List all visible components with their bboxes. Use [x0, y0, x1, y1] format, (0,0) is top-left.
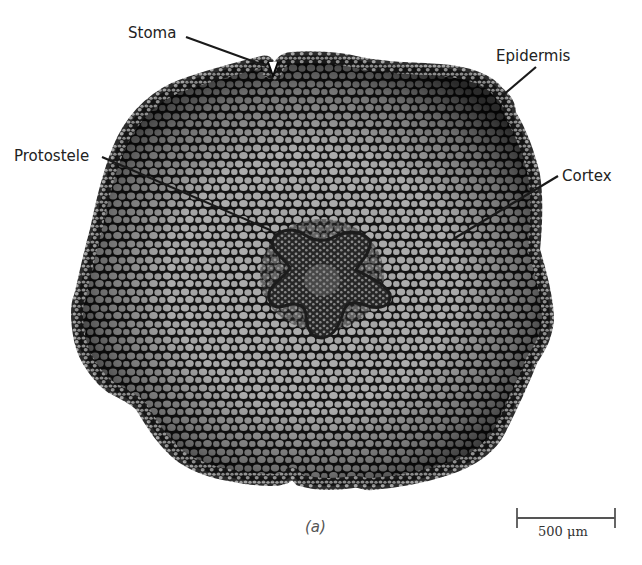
epidermis-leader-line	[502, 67, 536, 96]
scale-bar-label: 500 μm	[538, 524, 588, 539]
protostele-label: Protostele	[14, 147, 89, 165]
figure-caption: (a)	[305, 518, 326, 536]
stem-cross-section-figure	[0, 0, 642, 565]
stoma-leader-line	[186, 37, 266, 66]
epidermis-label: Epidermis	[496, 47, 570, 65]
stoma-label: Stoma	[128, 24, 176, 42]
cortex-label: Cortex	[562, 167, 612, 185]
